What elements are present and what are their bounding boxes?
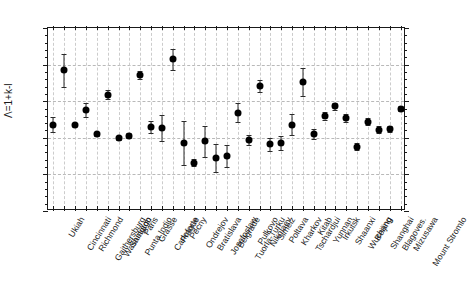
x-tick-top xyxy=(205,26,206,30)
y-tick-minor xyxy=(45,196,48,197)
x-tick xyxy=(75,206,76,211)
gridline-vertical xyxy=(401,28,402,209)
data-point xyxy=(321,112,328,119)
x-tick-top xyxy=(151,26,152,30)
y-tick-minor xyxy=(45,152,48,153)
error-bar-cap xyxy=(279,136,284,137)
data-point xyxy=(148,123,155,130)
x-tick-top xyxy=(86,26,87,30)
data-point xyxy=(115,134,122,141)
error-bar-cap xyxy=(333,110,338,111)
y-tick-minor-right xyxy=(404,87,407,88)
x-tick-top xyxy=(53,26,54,30)
data-point xyxy=(158,125,165,132)
x-tick-top xyxy=(314,26,315,30)
error-bar-cap xyxy=(355,150,360,151)
y-tick-minor xyxy=(45,130,48,131)
y-tick-minor xyxy=(45,109,48,110)
gridline-vertical xyxy=(108,28,109,209)
error-bar-cap xyxy=(235,103,240,104)
y-tick-major xyxy=(43,138,48,139)
x-tick-top xyxy=(401,26,402,30)
x-tick xyxy=(86,206,87,211)
y-tick-minor-right xyxy=(404,130,407,131)
error-bar-cap xyxy=(235,122,240,123)
data-point xyxy=(310,131,317,138)
error-bar-cap xyxy=(300,96,305,97)
x-tick xyxy=(346,206,347,211)
error-bar-cap xyxy=(51,117,56,118)
x-tick xyxy=(270,206,271,211)
x-tick-top xyxy=(97,26,98,30)
y-tick-minor xyxy=(45,123,48,124)
y-tick-minor-right xyxy=(404,116,407,117)
gridline-vertical xyxy=(227,28,228,209)
data-point xyxy=(82,106,89,113)
data-point xyxy=(191,159,198,166)
error-bar-cap xyxy=(257,80,262,81)
y-tick-minor xyxy=(45,204,48,205)
y-tick-minor xyxy=(45,50,48,51)
x-tick-top xyxy=(357,26,358,30)
error-bar-cap xyxy=(290,114,295,115)
gridline-vertical xyxy=(194,28,195,209)
x-tick xyxy=(335,206,336,211)
y-tick-minor xyxy=(45,145,48,146)
data-point xyxy=(299,79,306,86)
gridline-horizontal xyxy=(48,138,404,139)
x-tick-top xyxy=(119,26,120,30)
error-bar-cap xyxy=(290,135,295,136)
y-tick-major-right xyxy=(404,138,409,139)
error-bar-cap xyxy=(225,167,230,168)
y-tick-minor-right xyxy=(404,109,407,110)
data-point xyxy=(245,136,252,143)
x-tick-top xyxy=(184,26,185,30)
error-bar-cap xyxy=(268,151,273,152)
x-tick xyxy=(173,206,174,211)
error-bar-cap xyxy=(83,117,88,118)
gridline-vertical xyxy=(357,28,358,209)
y-tick-minor xyxy=(45,94,48,95)
error-bar-cap xyxy=(51,132,56,133)
x-tick xyxy=(281,206,282,211)
data-point xyxy=(224,153,231,160)
y-tick-minor xyxy=(45,79,48,80)
data-point xyxy=(343,115,350,122)
data-point xyxy=(50,121,57,128)
x-tick xyxy=(390,206,391,211)
data-point xyxy=(375,126,382,133)
x-tick xyxy=(292,206,293,211)
error-bar-cap xyxy=(344,122,349,123)
error-bar-cap xyxy=(105,99,110,100)
x-tick xyxy=(314,206,315,211)
y-tick-major-right xyxy=(404,101,409,102)
y-tick-major xyxy=(43,174,48,175)
y-tick-minor xyxy=(45,87,48,88)
x-tick-top xyxy=(75,26,76,30)
x-tick-top xyxy=(303,26,304,30)
error-bar-cap xyxy=(149,133,154,134)
y-tick-minor-right xyxy=(404,160,407,161)
error-bar-cap xyxy=(62,87,67,88)
x-tick xyxy=(227,206,228,211)
gridline-vertical xyxy=(129,28,130,209)
y-tick-minor-right xyxy=(404,123,407,124)
x-tick xyxy=(238,206,239,211)
error-bar-cap xyxy=(257,92,262,93)
x-tick xyxy=(64,206,65,211)
x-tick-top xyxy=(64,26,65,30)
y-tick-minor-right xyxy=(404,57,407,58)
error-bar-cap xyxy=(149,121,154,122)
error-bar-cap xyxy=(203,126,208,127)
x-tick xyxy=(216,206,217,211)
x-tick-top xyxy=(346,26,347,30)
x-tick-top xyxy=(368,26,369,30)
y-tick-minor-right xyxy=(404,145,407,146)
y-tick-minor xyxy=(45,116,48,117)
gridline-vertical xyxy=(140,28,141,209)
error-bar-cap xyxy=(170,70,175,71)
error-bar-cap xyxy=(181,165,186,166)
y-tick-minor-right xyxy=(404,196,407,197)
error-bar-cap xyxy=(300,68,305,69)
x-tick-top xyxy=(379,26,380,30)
